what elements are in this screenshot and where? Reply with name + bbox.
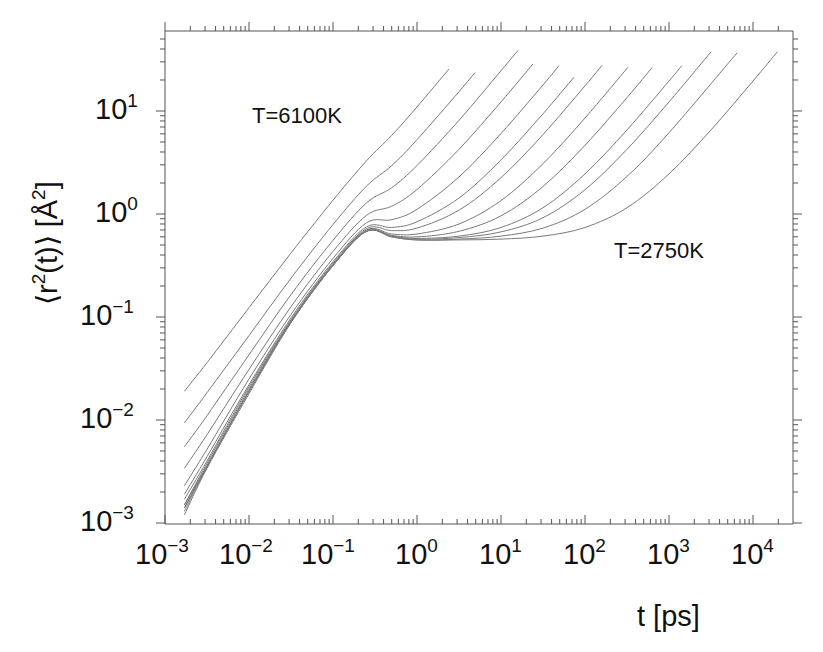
msd-curve (184, 66, 559, 486)
y-tick-label: 101 (95, 95, 138, 124)
msd-curve (184, 77, 574, 494)
x-tick-label: 102 (563, 540, 606, 569)
x-tick-label: 10−1 (301, 540, 355, 569)
annotation-hot: T=6100K (252, 103, 342, 129)
annotation-cold: T=2750K (614, 238, 704, 264)
msd-chart: 101 100 10−1 10−2 10−3 10−3 10−2 10−1 10… (0, 0, 823, 652)
x-tick-label: 103 (647, 540, 690, 569)
y-tick-label: 10−3 (80, 507, 134, 536)
x-tick-label: 10−2 (219, 540, 273, 569)
msd-curve (184, 50, 518, 447)
msd-curve (184, 66, 681, 508)
y-tick-label: 10−2 (80, 404, 134, 433)
x-tick-label: 104 (731, 540, 774, 569)
y-tick-label: 100 (95, 198, 138, 227)
x-tick-label: 10−3 (135, 540, 189, 569)
y-axis-label: ⟨r2(t)⟩ [Å2] (30, 181, 64, 305)
x-tick-label: 101 (479, 540, 522, 569)
x-tick-label: 100 (395, 540, 438, 569)
x-axis-label: t [ps] (637, 600, 700, 633)
y-tick-label: 10−1 (80, 301, 134, 330)
msd-curve (184, 67, 628, 505)
msd-curve (184, 68, 652, 505)
msd-curve (184, 65, 602, 499)
